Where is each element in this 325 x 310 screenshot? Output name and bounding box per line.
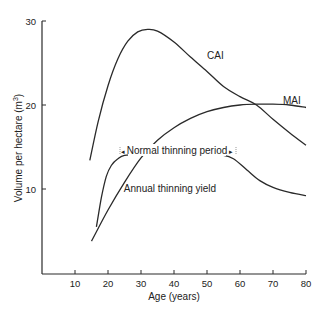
thinning-yield-label: Annual thinning yield [124, 183, 216, 194]
x-tick-label: 30 [136, 278, 147, 289]
y-tick-label: 30 [25, 16, 36, 27]
y-tick-label: 10 [25, 184, 36, 195]
x-tick-label: 40 [169, 278, 180, 289]
right-arrow-icon: ▸ [229, 148, 233, 155]
x-ticks: 1020304050607080 [70, 270, 312, 289]
thinning-period-span: ◂ ▸ Normal thinning period [120, 144, 236, 156]
x-tick-label: 50 [202, 278, 213, 289]
curves [90, 29, 306, 241]
x-tick-label: 20 [103, 278, 114, 289]
left-arrow-icon: ◂ [121, 148, 125, 155]
cai-curve [90, 29, 306, 160]
mai-label: MAI [283, 95, 301, 106]
chart: 1020304050607080 102030 Age (years) Volu… [0, 0, 325, 310]
x-axis-label: Age (years) [148, 291, 200, 302]
x-tick-label: 10 [70, 278, 81, 289]
y-axis-label: Volume per hectare (m3) [12, 94, 24, 202]
x-tick-label: 60 [235, 278, 246, 289]
x-tick-label: 80 [301, 278, 312, 289]
x-tick-label: 70 [268, 278, 279, 289]
mai-curve [92, 104, 307, 241]
y-tick-label: 20 [25, 100, 36, 111]
y-ticks: 102030 [25, 16, 46, 195]
cai-label: CAI [207, 50, 224, 61]
thinning-period-label: Normal thinning period [127, 145, 228, 156]
